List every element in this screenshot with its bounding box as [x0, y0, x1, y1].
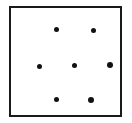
border-edge-left — [9, 6, 11, 117]
dot-top-right — [91, 28, 96, 33]
border-edge-top — [9, 6, 122, 8]
figure-canvas — [0, 0, 132, 123]
border-edge-bottom — [9, 115, 122, 117]
dot-bottom-left — [54, 97, 59, 102]
dot-bottom-right — [88, 97, 94, 103]
dot-middle-left — [37, 64, 42, 69]
square-border — [9, 6, 122, 117]
border-edge-right — [120, 6, 122, 117]
dot-middle-right — [107, 62, 113, 68]
dot-middle-center — [72, 63, 77, 68]
dot-top-left — [54, 27, 59, 32]
